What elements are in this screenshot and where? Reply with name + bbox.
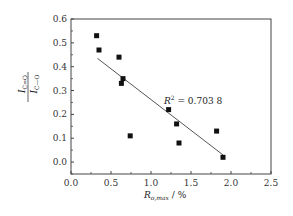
- fit-line: [97, 58, 223, 155]
- y-tick-label: 0.5: [53, 38, 68, 48]
- svg-text:IC=O: IC=O: [17, 75, 28, 94]
- x-tick-label: 0.0: [64, 178, 79, 188]
- data-point: [94, 33, 99, 38]
- data-point: [177, 141, 182, 146]
- x-tick-label: 2.5: [264, 178, 279, 188]
- scatter-chart: 0.00.51.01.52.02.50.00.10.20.30.40.50.6 …: [0, 0, 293, 216]
- x-tick-label: 0.5: [104, 178, 119, 188]
- data-point: [117, 55, 122, 60]
- x-axis-label: Ro,max / %: [143, 190, 187, 201]
- y-tick-label: 0.2: [53, 109, 67, 119]
- x-tick-label: 1.5: [184, 178, 199, 188]
- data-point: [119, 81, 124, 86]
- y-axis-label: IC=O IC—O: [17, 72, 40, 102]
- data-point: [221, 155, 226, 160]
- x-tick-label: 2.0: [224, 178, 239, 188]
- y-tick-label: 0.6: [53, 14, 68, 24]
- y-tick-label: 0.4: [53, 62, 68, 72]
- data-point: [97, 48, 102, 53]
- data-point: [214, 129, 219, 134]
- svg-text:IC—O: IC—O: [29, 74, 40, 94]
- data-point: [121, 76, 126, 81]
- data-point: [128, 133, 133, 138]
- data-point: [174, 121, 179, 126]
- x-tick-label: 1.0: [144, 178, 159, 188]
- y-tick-label: 0.1: [53, 133, 67, 143]
- y-tick-label: 0.0: [53, 157, 68, 167]
- r2-annotation: R2 = 0.703 8: [163, 94, 222, 106]
- data-point: [166, 107, 171, 112]
- y-tick-label: 0.3: [53, 86, 68, 96]
